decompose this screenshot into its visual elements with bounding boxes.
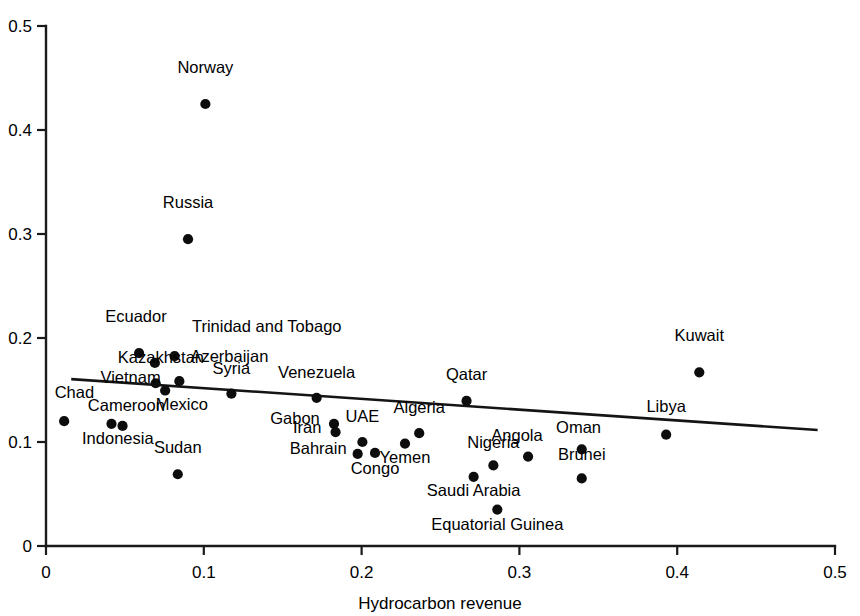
point-label: Brunei xyxy=(558,445,606,463)
point-label: Iran xyxy=(293,418,321,436)
point-label: Indonesia xyxy=(82,429,154,447)
data-point-marker xyxy=(226,389,236,399)
y-tick-label: 0.5 xyxy=(8,17,32,36)
x-axis-title: Hydrocarbon revenue xyxy=(358,594,521,613)
data-point-marker xyxy=(370,448,380,458)
y-tick-label: 0 xyxy=(23,537,32,556)
point-label: Venezuela xyxy=(278,363,356,381)
data-point-marker xyxy=(59,416,69,426)
point-label: Equatorial Guinea xyxy=(431,515,564,533)
data-point-marker xyxy=(492,505,502,515)
data-point-marker xyxy=(174,376,184,386)
y-tick-label: 0.1 xyxy=(8,433,32,452)
y-tick-label: 0.3 xyxy=(8,225,32,244)
point-label: Ecuador xyxy=(105,307,167,325)
data-point-marker xyxy=(400,438,410,448)
x-axis-ticks: 00.10.20.30.40.5 xyxy=(41,546,847,582)
data-point-marker xyxy=(106,419,116,429)
data-point-marker xyxy=(661,430,671,440)
point-label: Cameroon xyxy=(88,396,165,414)
data-point-marker xyxy=(357,437,367,447)
y-tick-label: 0.4 xyxy=(8,121,32,140)
data-point-marker xyxy=(183,234,193,244)
point-label: Yemen xyxy=(380,448,431,466)
point-label: Vietnam xyxy=(100,368,160,386)
point-label: Qatar xyxy=(446,365,488,383)
plot-canvas: 00.10.20.30.40.5 00.10.20.30.40.5 Norway… xyxy=(0,0,860,616)
data-point-marker xyxy=(312,393,322,403)
axes xyxy=(46,26,835,546)
data-point-marker xyxy=(461,396,471,406)
data-point-marker xyxy=(523,451,533,461)
data-point-marker xyxy=(488,460,498,470)
point-label: Algeria xyxy=(394,398,446,416)
data-labels-group: NorwayRussiaKuwaitEcuadorTrinidad and To… xyxy=(55,58,725,533)
point-label: Oman xyxy=(556,418,601,436)
x-tick-label: 0.5 xyxy=(823,563,847,582)
data-point-marker xyxy=(330,427,340,437)
x-tick-label: 0.3 xyxy=(508,563,532,582)
y-axis-ticks: 00.10.20.30.40.5 xyxy=(8,17,46,556)
point-label: Bahrain xyxy=(290,439,347,457)
point-label: Norway xyxy=(177,58,234,76)
point-label: Sudan xyxy=(154,438,202,456)
point-label: Kuwait xyxy=(675,326,725,344)
point-label: Libya xyxy=(646,397,686,415)
y-tick-label: 0.2 xyxy=(8,329,32,348)
x-tick-label: 0.1 xyxy=(192,563,216,582)
point-label: Syria xyxy=(213,359,251,377)
point-label: UAE xyxy=(345,407,379,425)
data-point-marker xyxy=(353,449,363,459)
scatter-plot-figure: 00.10.20.30.40.5 00.10.20.30.40.5 Norway… xyxy=(0,0,860,616)
data-point-marker xyxy=(694,367,704,377)
x-tick-label: 0.4 xyxy=(665,563,689,582)
data-point-marker xyxy=(173,469,183,479)
data-point-marker xyxy=(577,473,587,483)
x-tick-label: 0 xyxy=(41,563,50,582)
data-point-marker xyxy=(200,99,210,109)
point-label: Russia xyxy=(163,193,214,211)
data-point-marker xyxy=(414,428,424,438)
x-tick-label: 0.2 xyxy=(350,563,374,582)
point-label: Saudi Arabia xyxy=(427,481,521,499)
point-label: Angola xyxy=(491,426,543,444)
point-label: Trinidad and Tobago xyxy=(192,317,342,335)
